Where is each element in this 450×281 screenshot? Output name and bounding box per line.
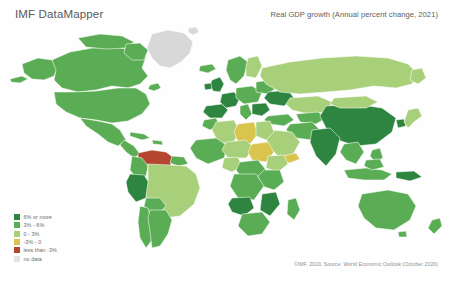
legend-item-label: less than -3% [24, 247, 57, 253]
region-dr-congo[interactable] [230, 174, 264, 200]
region-new-zealand[interactable] [428, 218, 442, 234]
region-balkans[interactable] [252, 103, 270, 116]
legend-item-label: no data [24, 256, 42, 262]
region-madagascar[interactable] [287, 198, 300, 220]
region-india[interactable] [310, 128, 340, 166]
region-united-kingdom[interactable] [210, 77, 224, 92]
legend-swatch-icon [14, 256, 20, 262]
map-legend: 6% or more 3% - 6% 0 - 3% -3% - 0 less t… [14, 213, 106, 263]
legend-item-label: 0 - 3% [24, 231, 40, 237]
region-aleutians[interactable] [10, 76, 28, 83]
region-greenland[interactable] [147, 30, 193, 68]
legend-swatch-icon [14, 231, 20, 237]
region-russia[interactable] [260, 56, 418, 94]
legend-item-0-to-3[interactable]: 0 - 3% [14, 230, 106, 238]
region-central-america[interactable] [120, 140, 140, 158]
legend-item-3-to-6[interactable]: 3% - 6% [14, 222, 106, 230]
legend-swatch-icon [14, 239, 20, 245]
legend-item-label: 6% or more [24, 214, 52, 220]
region-guyanas[interactable] [170, 156, 188, 166]
region-new-guinea[interactable] [396, 171, 422, 181]
datamapper-page: IMF DataMapper Real GDP growth (Annual p… [0, 0, 450, 281]
region-west-africa[interactable] [190, 138, 228, 164]
region-southern-africa[interactable] [238, 212, 270, 236]
legend-swatch-icon [14, 214, 20, 220]
page-title: IMF DataMapper [15, 8, 103, 20]
legend-item-6-or-more[interactable]: 6% or more [14, 213, 106, 221]
region-greenland-islet[interactable] [188, 27, 199, 35]
region-argentina[interactable] [148, 210, 172, 248]
legend-item-minus3-to-0[interactable]: -3% - 0 [14, 238, 106, 246]
legend-item-no-data[interactable]: no data [14, 255, 106, 263]
legend-item-label: -3% - 0 [24, 239, 42, 245]
source-attribution: ©IMF, 2020, Source: World Economic Outlo… [294, 261, 438, 267]
legend-item-label: 3% - 6% [24, 222, 45, 228]
region-united-states[interactable] [54, 88, 150, 123]
region-tasmania[interactable] [398, 231, 407, 237]
region-italy[interactable] [240, 104, 252, 120]
region-cuba[interactable] [130, 132, 150, 140]
region-indonesia[interactable] [344, 168, 392, 180]
legend-swatch-icon [14, 247, 20, 253]
region-spain-portugal[interactable] [203, 104, 228, 118]
region-iceland[interactable] [199, 64, 216, 73]
region-finland[interactable] [246, 56, 262, 78]
indicator-title: Real GDP growth (Annual percent change, … [270, 10, 438, 19]
region-ireland[interactable] [204, 83, 212, 90]
region-ethiopia[interactable] [266, 155, 288, 172]
region-norway-sweden[interactable] [226, 56, 248, 84]
region-australia[interactable] [358, 190, 416, 230]
region-newfoundland[interactable] [148, 83, 161, 91]
legend-swatch-icon [14, 222, 20, 228]
legend-item-less-than-minus3[interactable]: less than -3% [14, 246, 106, 254]
region-mozambique[interactable] [260, 192, 280, 216]
region-japan[interactable] [404, 108, 422, 128]
region-hispaniola[interactable] [152, 140, 163, 145]
